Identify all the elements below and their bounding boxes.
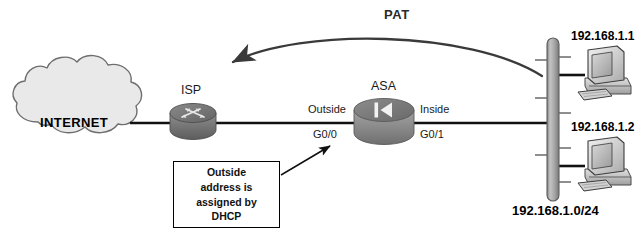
- subnet-label: 192.168.1.0/24: [512, 204, 599, 217]
- host-top-ip-label: 192.168.1.1: [571, 30, 634, 42]
- inside-interface-label: Inside: [420, 104, 449, 115]
- outside-interface-port: G0/0: [313, 129, 337, 140]
- pat-flow-arrow: [233, 39, 542, 76]
- callout-line-1: Outside: [207, 165, 246, 180]
- lan-segment-bus: [535, 38, 571, 201]
- dhcp-callout-box: Outside address is assigned by DHCP: [173, 161, 280, 228]
- desktop-computer-icon: [578, 137, 631, 191]
- internet-cloud-label: INTERNET: [40, 116, 108, 129]
- asa-firewall-label: ASA: [371, 80, 396, 93]
- desktop-computer-icon: [578, 46, 631, 100]
- host-bottom-ip-label: 192.168.1.2: [571, 121, 634, 133]
- inside-interface-port: G0/1: [420, 129, 444, 140]
- isp-router-label: ISP: [181, 84, 201, 97]
- callout-line-3: assigned by: [196, 195, 257, 210]
- network-topology-diagram: INTERNET ISP ASA Outside G0/0 Inside G0/…: [0, 0, 643, 239]
- firewall-icon: [354, 99, 414, 145]
- pat-label: PAT: [384, 8, 410, 21]
- outside-interface-label: Outside: [308, 104, 346, 115]
- router-icon: [170, 104, 216, 140]
- callout-line-2: address is: [201, 180, 253, 195]
- callout-leader-arrow: [281, 146, 330, 175]
- callout-line-4: DHCP: [212, 209, 242, 224]
